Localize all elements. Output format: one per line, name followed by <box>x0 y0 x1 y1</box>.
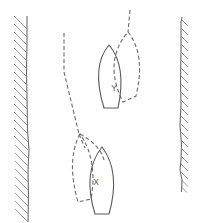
boat-y-hull[interactable] <box>99 45 121 108</box>
right-bank <box>180 17 188 193</box>
boat-y-track <box>128 10 130 32</box>
left-bank-shoreline <box>27 16 30 222</box>
right-bank-hatching <box>181 20 188 193</box>
boat-x-track <box>64 33 79 134</box>
left-bank-hatching <box>14 16 29 222</box>
boat-y-label: Y <box>111 83 117 93</box>
left-bank <box>14 16 29 222</box>
boat-channel-diagram: Y X <box>0 0 202 223</box>
boat-x-previous-hull-right <box>80 134 104 160</box>
boat-x-label: X <box>93 177 99 187</box>
boat-x-track-tail <box>79 134 85 148</box>
right-bank-shoreline <box>180 17 182 192</box>
boat-y-previous-hull <box>114 32 140 102</box>
